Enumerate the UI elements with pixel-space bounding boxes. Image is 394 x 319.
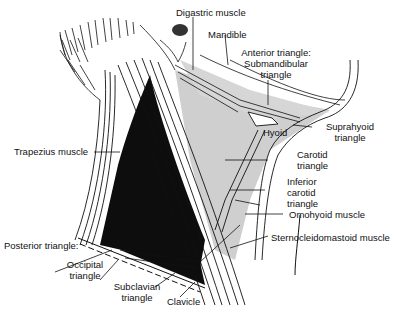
label-occipital-line1: Occipital [60, 259, 110, 270]
label-subclavian-triangle: Subclavian triangle [108, 281, 166, 303]
label-mandible: Mandible [208, 29, 247, 40]
label-sternocleidomastoid-muscle: Sternocleidomastoid muscle [271, 232, 390, 243]
beard-hatching [60, 18, 186, 100]
label-subclavian-line2: triangle [108, 292, 166, 303]
label-omohyoid-muscle: Omohyoid muscle [289, 209, 365, 220]
neck-triangles-figure: Digastric muscle Mandible Anterior trian… [0, 0, 394, 319]
label-carotid-triangle: Carotid triangle [297, 149, 328, 171]
label-anterior-line2: Submandibular [236, 58, 316, 69]
label-anterior-line3: triangle [236, 69, 316, 80]
label-inferior-carotid-triangle: Inferior carotid triangle [287, 176, 318, 209]
label-occipital-triangle: Occipital triangle [60, 259, 110, 281]
label-inferior-line3: triangle [287, 198, 318, 209]
label-subclavian-line1: Subclavian [108, 281, 166, 292]
label-suprahyoid-line1: Suprahyoid [318, 121, 382, 132]
label-suprahyoid-line2: triangle [318, 132, 382, 143]
label-anterior-line1: Anterior triangle: [236, 47, 316, 58]
label-occipital-line2: triangle [60, 270, 110, 281]
label-inferior-line2: carotid [287, 187, 318, 198]
label-digastric-muscle: Digastric muscle [176, 7, 246, 18]
label-posterior-triangle: Posterior triangle: [4, 240, 78, 251]
label-carotid-line2: triangle [297, 160, 328, 171]
label-carotid-line1: Carotid [297, 149, 328, 160]
label-suprahyoid-triangle: Suprahyoid triangle [318, 121, 382, 143]
label-trapezius-muscle: Trapezius muscle [14, 146, 88, 157]
label-clavicle: Clavicle [167, 296, 200, 307]
label-anterior-triangle: Anterior triangle: Submandibular triangl… [236, 47, 316, 80]
label-inferior-line1: Inferior [287, 176, 318, 187]
label-hyoid: Hyoid [263, 127, 287, 138]
